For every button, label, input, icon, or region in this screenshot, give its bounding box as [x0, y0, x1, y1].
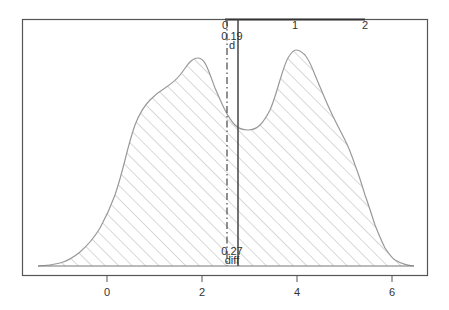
top-tick-label-1: 1 — [292, 19, 298, 31]
density-chart: 0 1 2 0.19 d 0.27 diff 0 2 4 6 — [0, 0, 449, 310]
x-tick-label-4: 4 — [294, 286, 300, 298]
d-name-label: d — [229, 39, 235, 51]
x-tick-label-0: 0 — [104, 286, 110, 298]
top-tick-label-2: 2 — [362, 19, 368, 31]
density-area — [38, 50, 414, 266]
diff-name-label: diff — [225, 254, 240, 266]
x-axis — [107, 276, 392, 282]
x-tick-label-6: 6 — [389, 286, 395, 298]
x-tick-label-2: 2 — [199, 286, 205, 298]
